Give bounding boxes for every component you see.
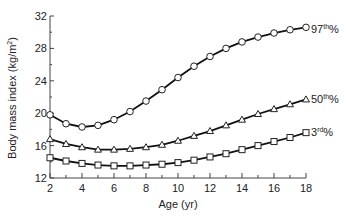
x-axis-label: Age (yr)	[158, 198, 197, 210]
circle-marker-icon	[303, 24, 310, 31]
legend-97th: 97th%	[311, 23, 339, 35]
y-axis-label: Body mass index (kg/m2)	[6, 37, 18, 159]
square-marker-icon	[271, 139, 277, 145]
circle-marker-icon	[175, 74, 182, 81]
axes: 12162024283224681012141618	[35, 10, 312, 194]
x-tick-label: 2	[47, 182, 53, 194]
circle-marker-icon	[127, 108, 134, 115]
circle-marker-icon	[239, 39, 246, 46]
x-tick-label: 14	[236, 182, 248, 194]
square-marker-icon	[255, 143, 261, 149]
circle-marker-icon	[271, 30, 278, 37]
square-marker-icon	[79, 160, 85, 166]
circle-marker-icon	[47, 112, 54, 119]
triangle-marker-icon	[303, 96, 310, 102]
y-tick-label: 24	[35, 75, 47, 87]
x-tick-label: 18	[300, 182, 312, 194]
circle-marker-icon	[159, 86, 166, 93]
square-marker-icon	[239, 147, 245, 153]
square-marker-icon	[287, 135, 293, 141]
square-marker-icon	[159, 161, 165, 167]
x-tick-label: 16	[268, 182, 280, 194]
legend-3rd: 3rd%	[311, 126, 333, 138]
square-marker-icon	[127, 163, 133, 169]
square-marker-icon	[175, 160, 181, 166]
y-tick-label: 32	[35, 10, 47, 22]
square-marker-icon	[47, 155, 53, 161]
series-lines	[47, 24, 310, 169]
circle-marker-icon	[95, 122, 102, 129]
circle-marker-icon	[79, 124, 86, 131]
bmi-percentile-chart: 12162024283224681012141618 Body mass ind…	[0, 0, 347, 219]
y-tick-label: 12	[35, 172, 47, 184]
y-tick-label: 16	[35, 140, 47, 152]
circle-marker-icon	[143, 98, 150, 105]
legend-50th: 50th%	[311, 93, 339, 105]
square-marker-icon	[111, 163, 117, 169]
square-marker-icon	[95, 162, 101, 168]
x-tick-label: 4	[79, 182, 85, 194]
circle-marker-icon	[223, 45, 230, 52]
x-tick-label: 6	[111, 182, 117, 194]
circle-marker-icon	[111, 116, 118, 123]
x-tick-label: 10	[172, 182, 184, 194]
circle-marker-icon	[207, 53, 214, 60]
square-marker-icon	[207, 154, 213, 160]
x-tick-label: 8	[143, 182, 149, 194]
square-marker-icon	[143, 162, 149, 168]
square-marker-icon	[63, 158, 69, 164]
circle-marker-icon	[255, 34, 262, 41]
square-marker-icon	[303, 130, 309, 136]
circle-marker-icon	[63, 120, 70, 127]
circle-marker-icon	[287, 26, 294, 33]
square-marker-icon	[223, 151, 229, 157]
y-tick-label: 20	[35, 107, 47, 119]
triangle-marker-icon	[47, 136, 54, 142]
y-tick-label: 28	[35, 42, 47, 54]
x-tick-label: 12	[204, 182, 216, 194]
square-marker-icon	[191, 157, 197, 163]
circle-marker-icon	[191, 63, 198, 70]
